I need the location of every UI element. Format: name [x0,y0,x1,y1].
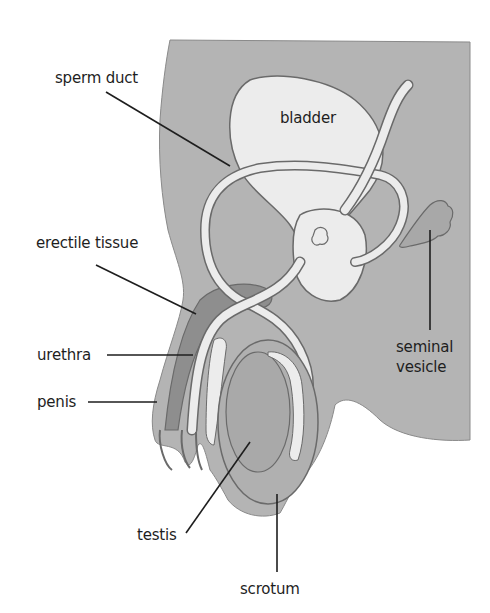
label-erectile-tissue: erectile tissue [36,234,138,252]
gland-detail [312,228,328,246]
prostate-gland [293,209,366,301]
label-urethra: urethra [37,346,91,364]
label-vesicle: vesicle [396,358,446,376]
label-sperm-duct: sperm duct [55,69,138,87]
label-bladder: bladder [280,109,336,127]
testis [226,352,290,472]
anatomy-illustration [0,0,490,613]
label-penis: penis [37,393,76,411]
label-testis: testis [137,526,177,544]
reproductive-system-diagram: sperm duct bladder erectile tissue ureth… [0,0,490,613]
label-seminal: seminal [396,338,453,356]
label-scrotum: scrotum [240,580,300,598]
